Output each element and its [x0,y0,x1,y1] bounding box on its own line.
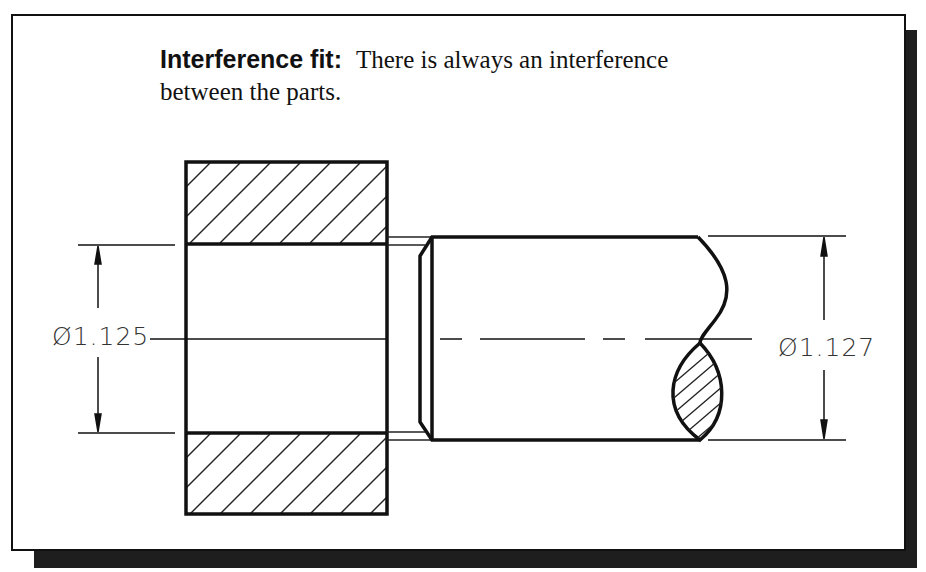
hub-top-hatch [130,163,450,243]
hub-bottom-hatch [130,434,450,514]
shaft-lobe-hatch [660,335,740,475]
interference-fit-drawing [0,0,926,572]
hub-part [130,162,450,514]
hole-diameter-label: Ø1.125 [52,322,149,351]
shaft-break-lobe [673,343,722,440]
bore-extension-lines [387,237,432,440]
shaft-break-line [698,237,727,343]
shaft-diameter-label: Ø1.127 [778,333,875,362]
